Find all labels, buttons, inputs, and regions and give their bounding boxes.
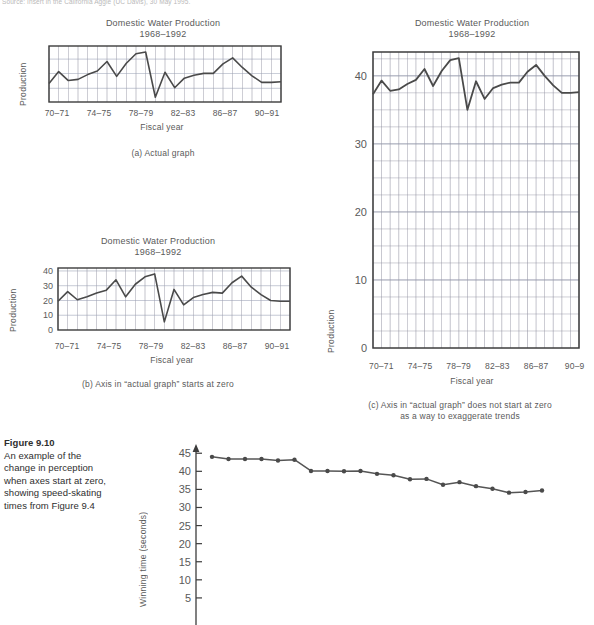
chart-c-title-line2: 1968–1992 (350, 29, 594, 40)
chart-b-xtick-0: 70–71 (46, 341, 88, 351)
data-point-marker (210, 455, 214, 459)
chart-a-xtick-3: 82–83 (162, 108, 204, 118)
chart-c-caption: (c) Axis in “actual graph” does not star… (326, 400, 594, 422)
chart-b-caption: (b) Axis in “actual graph” starts at zer… (8, 379, 308, 390)
data-point-marker (408, 477, 412, 481)
data-point-marker (259, 457, 263, 461)
ytick-label: 10 (179, 574, 191, 586)
chart-c: Domestic Water Production 1968–1992 Prod… (326, 18, 594, 422)
ytick-label: 5 (185, 592, 191, 604)
chart-a-xtick-0: 70–71 (36, 108, 78, 118)
chart-a-title: Domestic Water Production 1968–1992 (18, 18, 308, 40)
chart-a-plot (31, 44, 283, 106)
data-point-marker (325, 469, 329, 473)
chart-a-xtick-4: 86–87 (204, 108, 246, 118)
chart-c-xtick-2: 78–79 (439, 361, 478, 371)
chart-c-xtick-1: 74–75 (401, 361, 440, 371)
ytick-label: 15 (179, 556, 191, 568)
chart-skating-ylabel: Winning time (seconds) (138, 442, 148, 607)
chart-skating: Winning time (seconds) 51015202530354045 (138, 438, 570, 625)
chart-a-xtick-5: 90–91 (246, 108, 288, 118)
chart-c-xtick-0: 70–71 (362, 361, 401, 371)
chart-c-title: Domestic Water Production 1968–1992 (350, 18, 594, 40)
chart-b-xtick-4: 86–87 (214, 341, 256, 351)
data-point-marker (391, 473, 395, 477)
chart-b-ylabel: Production (8, 270, 18, 332)
ytick-label: 10 (43, 310, 53, 320)
chart-b-xtick-3: 82–83 (172, 341, 214, 351)
chart-a-ylabel: Production (18, 44, 28, 106)
chart-c-ylabel: Production (326, 53, 336, 353)
chart-b-plot: 010203040 (20, 262, 294, 340)
chart-c-plot: 010203040 (337, 46, 583, 360)
data-point-marker (474, 484, 478, 488)
figure-caption-line-0: An example of the (4, 450, 124, 463)
chart-a: Domestic Water Production 1968–1992 Prod… (18, 18, 308, 159)
data-point-marker (507, 490, 511, 494)
chart-b-xlabel: Fiscal year (46, 355, 298, 365)
ytick-label: 40 (355, 70, 367, 82)
source-note: Source: Insert in the California Aggie (… (2, 0, 302, 7)
chart-skating-plot: 51015202530354045 (150, 438, 570, 625)
chart-a-title-line2: 1968–1992 (18, 29, 308, 40)
chart-c-xlabel: Fiscal year (356, 376, 588, 386)
figure-caption-line-1: change in perception (4, 462, 124, 475)
chart-b-title: Domestic Water Production 1968–1992 (8, 236, 308, 258)
ytick-label: 35 (179, 483, 191, 495)
chart-a-xtick-2: 78–79 (120, 108, 162, 118)
chart-a-xticks: 70–71 74–75 78–79 82–83 86–87 90–91 (36, 108, 288, 118)
data-point-marker (226, 457, 230, 461)
ytick-label: 30 (43, 281, 53, 291)
data-point-marker (243, 457, 247, 461)
chart-c-caption-line2: as a way to exaggerate trends (326, 411, 594, 422)
figure-caption: Figure 9.10 An example of the change in … (4, 437, 124, 512)
data-point-marker (276, 458, 280, 462)
chart-b-xtick-2: 78–79 (130, 341, 172, 351)
chart-c-xtick-4: 86–87 (517, 361, 556, 371)
chart-a-xtick-1: 74–75 (78, 108, 120, 118)
chart-b: Domestic Water Production 1968–1992 Prod… (8, 236, 308, 390)
chart-b-title-line1: Domestic Water Production (8, 236, 308, 247)
ytick-label: 20 (355, 206, 367, 218)
figure-caption-line-3: showing speed-skating (4, 487, 124, 500)
chart-c-caption-line1: (c) Axis in “actual graph” does not star… (326, 400, 594, 411)
ytick-label: 30 (179, 501, 191, 513)
chart-a-xlabel: Fiscal year (36, 122, 288, 132)
chart-c-xtick-3: 82–83 (478, 361, 517, 371)
data-point-marker (342, 469, 346, 473)
chart-b-xticks: 70–71 74–75 78–79 82–83 86–87 90–91 (46, 341, 298, 351)
ytick-label: 0 (48, 325, 53, 335)
ytick-label: 20 (43, 296, 53, 306)
data-point-marker (490, 486, 494, 490)
ytick-label: 45 (179, 447, 191, 459)
chart-a-title-line1: Domestic Water Production (18, 18, 308, 29)
chart-a-caption: (a) Actual graph (18, 148, 308, 159)
data-point-marker (375, 472, 379, 476)
axis-arrow-icon (193, 444, 200, 452)
chart-b-xtick-5: 90–91 (256, 341, 298, 351)
chart-c-title-line1: Domestic Water Production (350, 18, 594, 29)
data-point-marker (358, 469, 362, 473)
chart-b-title-line2: 1968–1992 (8, 247, 308, 258)
data-point-marker (424, 477, 428, 481)
ytick-label: 0 (361, 342, 367, 354)
ytick-label: 10 (355, 274, 367, 286)
ytick-label: 30 (355, 138, 367, 150)
data-point-marker (523, 490, 527, 494)
figure-number: Figure 9.10 (4, 437, 124, 450)
ytick-label: 20 (179, 538, 191, 550)
data-point-marker (309, 469, 313, 473)
chart-c-xticks: 70–71 74–75 78–79 82–83 86–87 90–9 (362, 361, 594, 371)
data-point-marker (292, 458, 296, 462)
figure-caption-line-2: when axes start at zero, (4, 475, 124, 488)
figure-caption-line-4: times from Figure 9.4 (4, 500, 124, 513)
ytick-label: 40 (43, 266, 53, 276)
data-point-marker (441, 483, 445, 487)
ytick-label: 25 (179, 520, 191, 532)
data-point-marker (457, 480, 461, 484)
chart-b-xtick-1: 74–75 (88, 341, 130, 351)
chart-c-xtick-5: 90–9 (555, 361, 594, 371)
ytick-label: 40 (179, 465, 191, 477)
data-point-marker (540, 488, 544, 492)
